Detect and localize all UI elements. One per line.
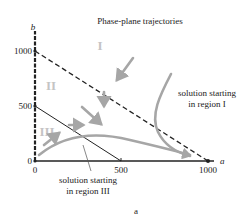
figure-caption: a <box>134 206 138 216</box>
phase-plane-figure: Phase-plane trajectories b a 1000 500 0 … <box>0 0 248 223</box>
arrow-region-II-diagonal <box>82 107 101 124</box>
x-tick-0: 0 <box>33 165 38 175</box>
y-tick-500: 500 <box>19 101 33 111</box>
annotation-region-I-line1: solution starting <box>178 88 237 98</box>
x-tick-500: 500 <box>114 165 128 175</box>
direction-arrows <box>44 58 133 145</box>
annotation-region-III-line1: solution starting <box>59 175 118 185</box>
chart-title: Phase-plane trajectories <box>97 16 183 26</box>
arrow-region-I-diagonal <box>117 58 133 80</box>
a-axis-label: a <box>220 156 225 166</box>
dashed-nullcline <box>35 51 208 161</box>
tick-origin <box>33 159 36 162</box>
region-label-II: II <box>46 78 56 93</box>
annotation-region-III-leader <box>83 145 91 171</box>
x-tick-1000: 1000 <box>199 165 218 175</box>
b-axis-label: b <box>31 22 36 32</box>
region-label-I: I <box>97 38 102 53</box>
y-tick-0: 0 <box>28 156 33 166</box>
annotation-region-I-line2: in region I <box>188 99 226 109</box>
annotation-region-III-line2: in region III <box>66 186 109 196</box>
trajectory-region-I <box>155 74 190 156</box>
y-tick-1000: 1000 <box>14 46 33 56</box>
